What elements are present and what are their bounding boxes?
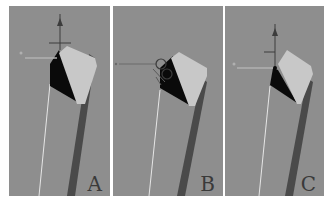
move-gizmo-icon	[233, 24, 279, 70]
shaft-edge	[39, 84, 50, 196]
shaft-edge	[149, 90, 160, 196]
viewport-panel-a: A	[9, 6, 110, 196]
mesh-render-c	[225, 6, 324, 196]
figure-three-viewports: A B	[0, 0, 330, 205]
viewport-panel-c: C	[225, 6, 324, 196]
panel-label-b: B	[200, 174, 215, 194]
shaft-edge	[259, 86, 270, 196]
viewport-panel-b: B	[113, 6, 223, 196]
panel-label-a: A	[88, 174, 102, 194]
mesh-render-a	[9, 6, 110, 196]
panel-label-c: C	[301, 174, 316, 194]
mesh-render-b	[113, 6, 223, 196]
